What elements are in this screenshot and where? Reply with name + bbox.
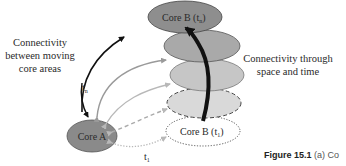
t1-edge-label: t1 [144,151,150,163]
caption-text: (a) Co [314,150,339,160]
svg-text:Connectivity through: Connectivity through [243,53,333,64]
figure-caption: Figure 15.1 (a) Co [264,150,339,160]
svg-text:Connectivity: Connectivity [13,37,68,48]
right-annotation: Connectivity through space and time [243,53,333,77]
core-a-label: Core A [78,131,107,142]
svg-text:between moving: between moving [5,50,75,61]
core-b-t1-label: Core B (t1) [180,126,224,138]
core-b-tn-label: Core B (tn) [162,12,206,24]
arrow-core-a-to-core-b-tn [82,37,124,112]
arrow-core-a-intermediate-3 [112,109,167,132]
figure-number: Figure 15.1 [264,150,312,160]
svg-text:space and time: space and time [257,66,320,77]
arrow-core-a-intermediate-2 [106,84,170,124]
left-annotation: Connectivity between moving core areas [5,37,75,74]
connectivity-diagram: Core B (tn) Core B (t1) Core A tn t1 Con… [0,0,346,166]
svg-text:core areas: core areas [19,63,61,74]
arrow-core-a-core-b-t1 [112,137,166,147]
